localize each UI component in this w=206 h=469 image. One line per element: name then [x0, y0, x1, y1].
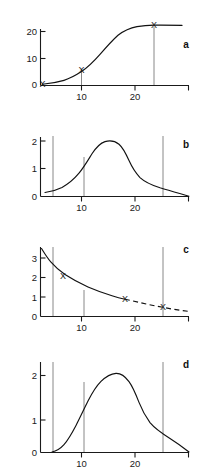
panel-c: X X X 3 2 1 0 10 20 c [32, 244, 190, 333]
panel-a: X X X 20 10 0 10 20 a [26, 20, 189, 102]
curve-b [45, 141, 189, 196]
y-tick-label: 0 [32, 79, 37, 90]
panel-b-guides [53, 136, 163, 196]
y-tick-label: 0 [32, 311, 37, 322]
curve-c-solid [42, 249, 126, 300]
data-marker-x: X [160, 302, 166, 312]
data-marker-x: X [78, 65, 84, 75]
panel-c-markers: X X X [60, 271, 166, 312]
panel-b-tick-labels: 2 1 0 10 20 [32, 136, 141, 214]
four-panel-figure: X X X 20 10 0 10 20 a [0, 0, 206, 469]
x-tick-label: 20 [130, 458, 141, 469]
panel-d: 2 1 0 10 20 d [32, 359, 189, 469]
panel-d-tick-labels: 2 1 0 10 20 [32, 370, 141, 469]
y-tick-label: 0 [32, 191, 37, 202]
panel-label-c: c [183, 244, 189, 255]
curve-d [52, 373, 189, 452]
y-tick-label: 10 [26, 53, 37, 64]
y-tick-label: 2 [32, 272, 37, 283]
x-tick-label: 20 [130, 322, 141, 333]
panel-label-d: d [183, 359, 189, 370]
panel-label-b: b [183, 139, 189, 150]
x-tick-label: 20 [130, 91, 141, 102]
panel-label-a: a [183, 39, 189, 50]
figure-root: X X X 20 10 0 10 20 a [0, 0, 206, 469]
curve-a [43, 25, 183, 84]
y-tick-label: 2 [32, 370, 37, 381]
panel-c-tick-labels: 3 2 1 0 10 20 [32, 253, 141, 334]
y-tick-label: 1 [32, 415, 37, 426]
y-tick-label: 2 [32, 136, 37, 147]
y-tick-label: 3 [32, 253, 37, 264]
data-marker-x: X [122, 294, 128, 304]
y-tick-label: 1 [32, 163, 37, 174]
panel-c-axes [41, 247, 190, 322]
y-tick-label: 0 [32, 447, 37, 458]
x-tick-label: 20 [130, 202, 141, 213]
x-tick-label: 10 [76, 322, 87, 333]
x-tick-label: 10 [76, 458, 87, 469]
panel-d-axes [41, 362, 190, 458]
panel-a-markers: X X X [39, 20, 157, 89]
panel-c-guides [53, 247, 163, 316]
data-marker-x: X [151, 20, 157, 30]
panel-b-axes [41, 137, 190, 202]
data-marker-x: X [60, 271, 66, 281]
panel-b: 2 1 0 10 20 b [32, 136, 189, 214]
curve-c-dashed [125, 299, 189, 311]
y-tick-label: 20 [26, 26, 37, 37]
x-tick-label: 10 [76, 202, 87, 213]
data-marker-x: X [39, 79, 45, 89]
y-tick-label: 1 [32, 292, 37, 303]
x-tick-label: 10 [76, 91, 87, 102]
